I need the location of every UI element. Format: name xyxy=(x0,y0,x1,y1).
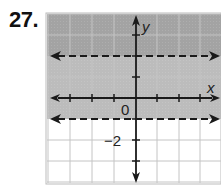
origin-label: 0 xyxy=(121,101,129,118)
coordinate-graph: y x 0 −2 xyxy=(0,0,221,188)
tick-label-neg2: −2 xyxy=(104,132,121,149)
x-axis-label: x xyxy=(206,79,215,96)
shading-texture xyxy=(47,14,221,119)
